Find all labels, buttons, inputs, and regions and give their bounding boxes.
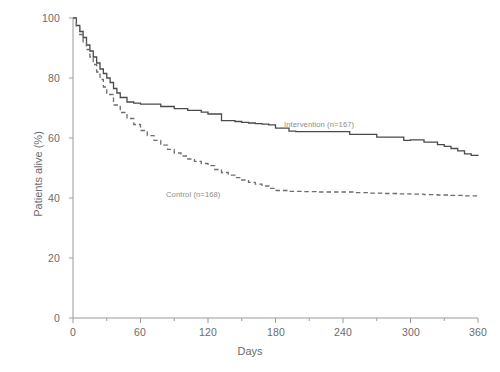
survival-curve-figure: 100 80 60 40 20 0 0 60 120 180 240 300 3… [0,0,500,372]
axes [69,18,478,323]
x-tick-label: 0 [70,326,76,338]
x-tick-label: 180 [267,326,285,338]
control-series-label: Control (n=168) [166,190,220,199]
y-tick-label: 0 [28,312,60,324]
x-tick-label: 60 [134,326,146,338]
x-tick-label: 240 [334,326,352,338]
y-axis-title: Patients alive (%) [32,94,44,254]
y-tick-label: 100 [28,12,60,24]
plot-area [0,0,500,372]
data-series [73,18,478,197]
x-tick-label: 120 [199,326,217,338]
x-axis-title: Days [0,345,500,357]
x-tick-label: 300 [402,326,420,338]
y-tick-label: 80 [28,72,60,84]
x-tick-label: 360 [469,326,487,338]
figure-caption [0,362,500,372]
intervention-series-label: Intervention (n=167) [284,120,354,129]
